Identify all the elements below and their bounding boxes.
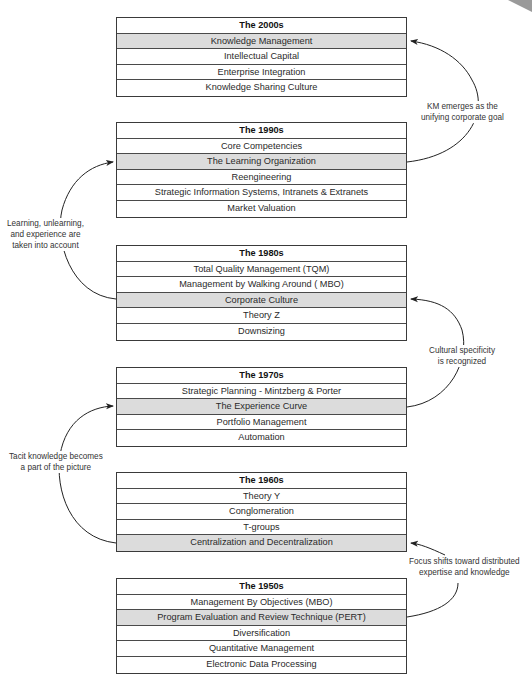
decade-item: Strategic Planning - Mintzberg & Porter bbox=[117, 384, 406, 400]
decade-item: Knowledge Sharing Culture bbox=[117, 80, 406, 96]
decade-title: The 1990s bbox=[117, 123, 406, 139]
decade-item-highlighted: Program Evaluation and Review Technique … bbox=[117, 610, 406, 626]
decade-item: Total Quality Management (TQM) bbox=[117, 262, 406, 278]
decade-item-highlighted: Centralization and Decentralization bbox=[117, 535, 406, 551]
note-tacit-knowledge: Tacit knowledge becomes a part of the pi… bbox=[8, 451, 104, 473]
decade-title: The 1960s bbox=[117, 473, 406, 489]
decade-item: Conglomeration bbox=[117, 504, 406, 520]
decade-box-the-2000s: The 2000sKnowledge ManagementIntellectua… bbox=[116, 17, 407, 97]
decade-item: Reengineering bbox=[117, 170, 406, 186]
decade-title: The 2000s bbox=[117, 18, 406, 34]
decade-item: Portfolio Management bbox=[117, 415, 406, 431]
decade-item: Strategic Information Systems, Intranets… bbox=[117, 185, 406, 201]
note-km-emerges: KM emerges as the unifying corporate goa… bbox=[420, 101, 505, 123]
decade-box-the-1950s: The 1950sManagement By Objectives (MBO)P… bbox=[116, 578, 407, 674]
decade-box-the-1980s: The 1980sTotal Quality Management (TQM)M… bbox=[116, 245, 407, 341]
decade-item: Management by Walking Around ( MBO) bbox=[117, 277, 406, 293]
decade-title: The 1970s bbox=[117, 368, 406, 384]
decade-title: The 1980s bbox=[117, 246, 406, 262]
decade-title: The 1950s bbox=[117, 579, 406, 595]
note-cultural-specificity: Cultural specificity is recognized bbox=[428, 345, 496, 367]
decade-item: Diversification bbox=[117, 626, 406, 642]
arrow-1950s-to-1960s bbox=[407, 583, 458, 617]
decade-item: Downsizing bbox=[117, 324, 406, 340]
decade-item: Intellectual Capital bbox=[117, 49, 406, 65]
decade-item: Management By Objectives (MBO) bbox=[117, 595, 406, 611]
decade-item: Theory Y bbox=[117, 489, 406, 505]
decade-item-highlighted: The Learning Organization bbox=[117, 154, 406, 170]
decade-item: Electronic Data Processing bbox=[117, 657, 406, 673]
decade-item: Core Competencies bbox=[117, 139, 406, 155]
decade-item: Enterprise Integration bbox=[117, 65, 406, 81]
decade-item-highlighted: The Experience Curve bbox=[117, 399, 406, 415]
decade-item-highlighted: Knowledge Management bbox=[117, 34, 406, 50]
decade-item: Automation bbox=[117, 430, 406, 446]
arrow-1960s-to-1970s bbox=[59, 406, 116, 543]
decade-item: T-groups bbox=[117, 520, 406, 536]
decade-item: Quantitative Management bbox=[117, 641, 406, 657]
note-focus-shifts: Focus shifts toward distributed expertis… bbox=[408, 556, 521, 578]
note-learning: Learning, unlearning, and experience are… bbox=[6, 218, 85, 251]
decade-box-the-1990s: The 1990sCore CompetenciesThe Learning O… bbox=[116, 122, 407, 218]
decade-item: Theory Z bbox=[117, 308, 406, 324]
decade-item-highlighted: Corporate Culture bbox=[117, 293, 406, 309]
decade-item: Market Valuation bbox=[117, 201, 406, 217]
decade-box-the-1970s: The 1970sStrategic Planning - Mintzberg … bbox=[116, 367, 407, 447]
decade-box-the-1960s: The 1960sTheory YConglomerationT-groupsC… bbox=[116, 472, 407, 552]
